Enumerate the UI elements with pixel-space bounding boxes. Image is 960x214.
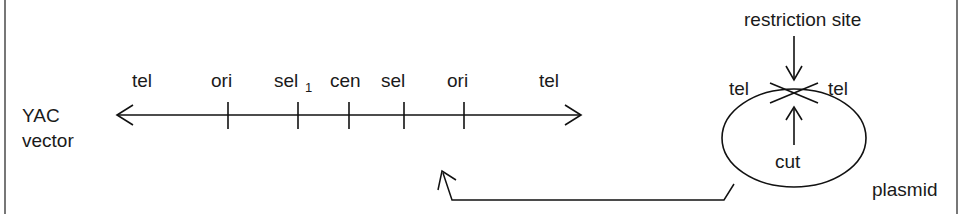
restriction-site-arrow (786, 36, 802, 80)
marker-label-ori-left: ori (211, 70, 232, 91)
yac-marker-labels: tel ori sel 1 cen sel ori tel (132, 70, 559, 95)
connector-path (443, 173, 734, 200)
yac-label-line2: vector (22, 130, 74, 151)
marker-label-cen: cen (330, 70, 361, 91)
plasmid-label: plasmid (872, 179, 937, 200)
cut-site-x-mark (770, 83, 818, 103)
cut-arrow (786, 107, 802, 145)
marker-label-tel-right: tel (539, 70, 559, 91)
figure-container: YAC vector tel ori sel 1 cen sel (0, 0, 960, 214)
marker-label-sel2: sel (381, 70, 405, 91)
cut-label: cut (775, 151, 801, 172)
yac-label-line1: YAC (22, 105, 60, 126)
plasmid-tel-left-label: tel (729, 78, 749, 99)
marker-sub-sel1: 1 (305, 80, 312, 95)
diagram-svg: YAC vector tel ori sel 1 cen sel (0, 0, 960, 214)
marker-label-ori-right: ori (447, 70, 468, 91)
marker-label-tel-left: tel (132, 70, 152, 91)
marker-label-sel1: sel (274, 70, 298, 91)
plasmid-to-yac-connector (438, 171, 734, 200)
restriction-site-label: restriction site (744, 9, 861, 30)
